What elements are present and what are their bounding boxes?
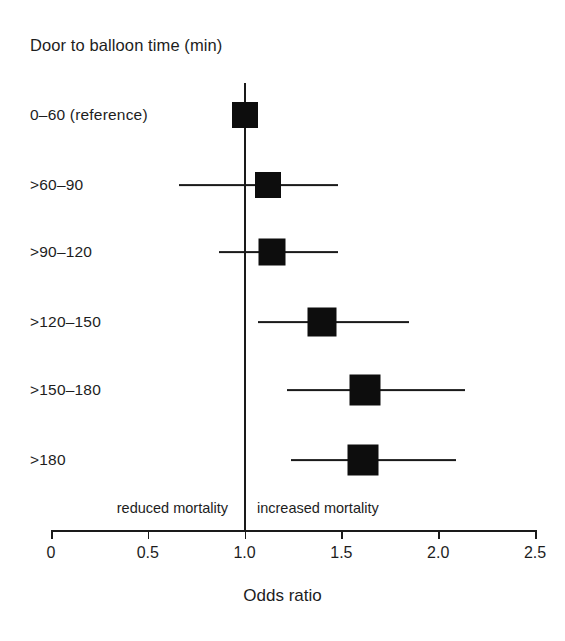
odds-ratio-marker (258, 239, 285, 266)
odds-ratio-marker (347, 445, 378, 476)
row-label: >150–180 (30, 381, 101, 399)
forest-plot-figure: Door to balloon time (min) 0–60 (referen… (0, 0, 565, 641)
x-axis-title: Odds ratio (0, 586, 565, 606)
odds-ratio-marker (308, 308, 337, 337)
x-axis-tick (245, 530, 247, 539)
annotation-increased-mortality: increased mortality (257, 500, 379, 516)
annotation-reduced-mortality: reduced mortality (117, 500, 228, 516)
odds-ratio-marker (349, 375, 380, 406)
x-axis-line (51, 530, 535, 532)
x-axis-tick (438, 530, 440, 539)
x-axis-tick (51, 530, 53, 539)
x-axis-tick-label: 1.5 (330, 544, 352, 562)
x-axis-tick-label: 0.5 (137, 544, 159, 562)
reference-line (244, 83, 246, 531)
row-label: 0–60 (reference) (30, 106, 148, 124)
row-label: >60–90 (30, 176, 83, 194)
row-label: >180 (30, 451, 66, 469)
odds-ratio-marker (232, 102, 258, 128)
x-axis-tick-label: 1.0 (233, 544, 255, 562)
x-axis-tick-label: 2.5 (524, 544, 546, 562)
x-axis-tick-label: 2.0 (427, 544, 449, 562)
row-label: >120–150 (30, 313, 101, 331)
plot-title: Door to balloon time (min) (30, 36, 222, 55)
x-axis-tick-label: 0 (47, 544, 56, 562)
x-axis-tick (535, 530, 537, 539)
row-label: >90–120 (30, 243, 92, 261)
x-axis-tick (341, 530, 343, 539)
odds-ratio-marker (255, 172, 281, 198)
x-axis-tick (148, 530, 150, 539)
